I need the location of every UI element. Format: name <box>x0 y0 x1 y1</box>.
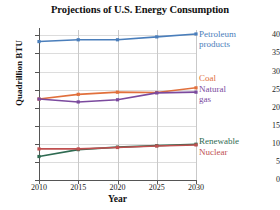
series-label-line: gas <box>199 95 226 105</box>
energy-consumption-chart: Projections of U.S. Energy Consumption Q… <box>0 0 280 210</box>
series-marker <box>155 35 158 38</box>
y-axis-tick-label: 0 <box>248 176 280 184</box>
series-marker <box>116 98 119 101</box>
y-axis-tick-label: 10 <box>248 140 280 148</box>
series-marker <box>116 91 119 94</box>
y-axis-tick-label: 15 <box>248 122 280 130</box>
y-axis-tick <box>35 35 39 36</box>
series-marker <box>155 91 158 94</box>
y-axis-tick <box>35 108 39 109</box>
series-label-line: Nuclear <box>199 148 227 158</box>
x-axis-tick-label: 2010 <box>19 183 59 192</box>
series-label-line: products <box>199 40 236 50</box>
y-axis-tick-label: 20 <box>248 104 280 112</box>
series-label-coal: Coal <box>199 74 216 84</box>
x-axis-tick-label: 2020 <box>98 183 138 192</box>
series-layer <box>0 0 280 210</box>
y-axis-tick <box>35 53 39 54</box>
series-marker <box>155 144 158 147</box>
y-axis-tick-label: 35 <box>248 49 280 57</box>
y-axis-tick <box>35 126 39 127</box>
y-axis-tick <box>35 162 39 163</box>
y-axis-tick <box>35 72 39 73</box>
y-axis-tick-label: 40 <box>248 31 280 39</box>
series-marker <box>116 38 119 41</box>
series-label-line: Coal <box>199 74 216 84</box>
x-axis-tick-label: 2030 <box>176 183 216 192</box>
series-marker <box>77 147 80 150</box>
y-axis-tick-label: 30 <box>248 68 280 76</box>
series-label-petroleum-products: Petroleumproducts <box>199 30 236 49</box>
x-axis-tick-label: 2015 <box>58 183 98 192</box>
series-marker <box>77 100 80 103</box>
series-label-line: Renewable <box>199 137 239 147</box>
series-marker <box>37 147 40 150</box>
series-marker <box>116 146 119 149</box>
series-marker <box>194 91 197 94</box>
series-marker <box>194 32 197 35</box>
series-marker <box>194 143 197 146</box>
x-axis-tick-label: 2025 <box>137 183 177 192</box>
y-axis-tick <box>35 144 39 145</box>
series-label-natural-gas: Naturalgas <box>199 85 226 104</box>
y-axis-tick-label: 25 <box>248 86 280 94</box>
series-label-renewable: Renewable <box>199 137 239 147</box>
series-marker <box>194 86 197 89</box>
y-axis-tick <box>35 90 39 91</box>
series-label-nuclear: Nuclear <box>199 148 227 158</box>
series-marker <box>37 155 40 158</box>
series-marker <box>37 97 40 100</box>
series-marker <box>77 38 80 41</box>
series-marker <box>77 93 80 96</box>
series-marker <box>37 40 40 43</box>
y-axis-tick-label: 5 <box>248 158 280 166</box>
